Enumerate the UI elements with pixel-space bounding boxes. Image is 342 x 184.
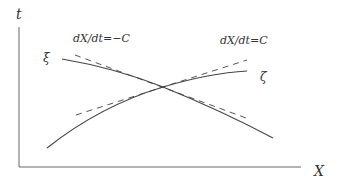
zeta-curve (47, 71, 247, 148)
t-axis-label: t (16, 6, 22, 22)
zeta-curve-label: ζ (260, 70, 268, 84)
characteristics-diagram: t X dX/dt=−C dX/dt=C ξ ζ (0, 0, 342, 184)
x-axis-label: X (313, 163, 325, 179)
xi-curve-label: ξ (43, 51, 51, 65)
tangent-label-minus-c: dX/dt=−C (73, 32, 130, 45)
tangent-label-plus-c: dX/dt=C (220, 34, 268, 47)
